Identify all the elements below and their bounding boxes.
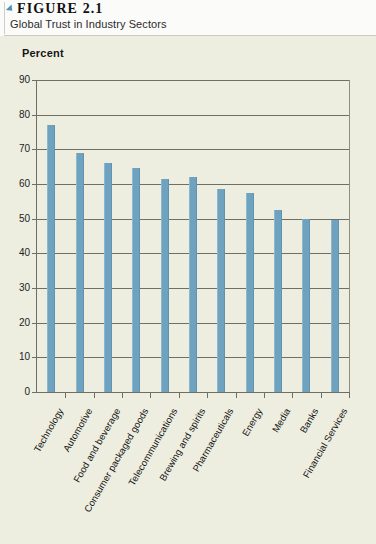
chart-canvas: Percent 0102030405060708090 TechnologyAu… [0,36,376,544]
y-axis-tick-mark [32,115,37,116]
gridline [37,149,349,150]
y-axis-tick-label: 10 [6,351,30,362]
y-axis-tick-label: 20 [6,317,30,328]
bar [331,220,339,392]
y-axis-tick-mark [32,219,37,220]
header-left-rule [4,2,5,34]
y-axis-tick-mark [32,184,37,185]
x-axis-tick-labels: TechnologyAutomotiveFood and beverageCon… [36,392,376,542]
bar [189,177,197,392]
bar [76,153,84,392]
figure-header: FIGURE 2.1 Global Trust in Industry Sect… [0,0,376,36]
bar [302,219,310,392]
y-axis-tick-label: 60 [6,178,30,189]
y-axis-tick-mark [32,253,37,254]
figure-number-label: FIGURE 2.1 [17,1,103,16]
y-axis-tick-mark [32,357,37,358]
y-axis-title: Percent [22,47,64,59]
y-axis-tick-label: 80 [6,109,30,120]
gridline [37,80,349,81]
bar [161,179,169,392]
y-axis-tick-label: 0 [6,386,30,397]
y-axis-tick-label: 90 [6,74,30,85]
bar [246,193,254,392]
bar [274,210,282,392]
y-axis-tick-label: 50 [6,213,30,224]
figure-caption: Global Trust in Industry Sectors [10,18,167,30]
y-axis-tick-mark [32,323,37,324]
triangle-marker-icon [6,4,15,13]
bar [104,163,112,392]
x-axis-tick-label: Energy [239,406,264,438]
bar [132,168,140,392]
plot-frame-right-edge [349,80,350,392]
y-axis-tick-mark [32,288,37,289]
bar [47,125,55,392]
bar [217,189,225,392]
x-axis-tick-label: Media [270,406,293,434]
y-axis-tick-label: 40 [6,247,30,258]
y-axis-tick-labels: 0102030405060708090 [4,80,30,392]
y-axis-tick-label: 70 [6,143,30,154]
gridline [37,115,349,116]
y-axis-tick-mark [32,149,37,150]
y-axis-tick-label: 30 [6,282,30,293]
figure-title-row: FIGURE 2.1 [8,1,103,16]
y-axis-tick-mark [32,80,37,81]
x-axis-tick-label: Banks [298,406,321,435]
plot-area [36,80,349,393]
